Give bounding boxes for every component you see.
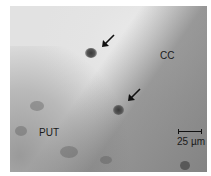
micrograph: CC PUT 25 µm (10, 6, 207, 172)
labeled-cell (85, 48, 97, 58)
arrow-icon (101, 34, 115, 48)
tissue-speck (180, 161, 190, 170)
tissue-speck (60, 146, 78, 158)
scale-bar (178, 131, 202, 132)
tissue-speck (100, 156, 112, 164)
arrow-icon (127, 88, 141, 102)
label-cc: CC (160, 50, 174, 61)
scale-bar-label: 25 µm (177, 136, 205, 147)
tissue-speck (15, 126, 27, 136)
tissue-speck (30, 101, 44, 111)
labeled-cell (113, 105, 124, 115)
label-put: PUT (39, 127, 59, 138)
